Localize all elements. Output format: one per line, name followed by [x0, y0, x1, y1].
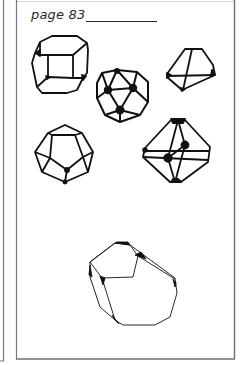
figure-truncated-octahedron	[89, 242, 177, 325]
figure-cuboctahedron	[143, 119, 210, 182]
page-label: page 83	[31, 7, 86, 22]
figure-icosidodecahedron	[97, 69, 148, 122]
figure-truncated-cube	[32, 36, 88, 93]
figure-truncated-tetrahedron	[167, 49, 215, 91]
page-canvas	[0, 0, 245, 365]
figure-dodecahedron	[35, 125, 93, 184]
